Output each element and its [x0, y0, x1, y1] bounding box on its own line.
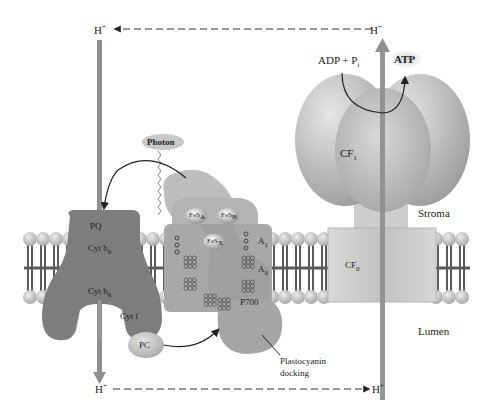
proton-label-bottom-right: H+: [372, 383, 384, 395]
proton-label-top-right: H+: [370, 24, 382, 36]
cyt-b6-lower-label: Cyt b6: [88, 287, 111, 299]
photon-label: Photon: [147, 138, 175, 147]
cyt-f-label: Cyt f: [120, 312, 138, 321]
plastocyanin-docking-label: Plastocyanin docking: [280, 355, 326, 379]
stroma-label: Stroma: [418, 208, 450, 219]
photosystem-i: [163, 170, 282, 354]
a0-label: A0: [258, 265, 268, 277]
cf0-label: CF0: [345, 261, 360, 273]
pc-label: PC: [139, 341, 150, 350]
adp-pi-label: ADP + Pi: [318, 55, 359, 69]
pq-label: PQ: [90, 222, 102, 231]
a1-label: A1: [258, 237, 268, 249]
fes-a-label: FeSA: [189, 212, 205, 221]
proton-label-top-left: H+: [94, 24, 106, 36]
atp-label: ATP: [394, 54, 415, 65]
cf1-label: CF1: [340, 148, 357, 162]
fes-b-label: FeSB: [221, 212, 237, 221]
p700-label: P700: [240, 298, 259, 307]
cyt-b6-upper-label: Cyt b6: [88, 244, 111, 256]
lumen-label: Lumen: [418, 326, 449, 337]
fes-x-label: FeSX: [207, 238, 223, 247]
photon-wave-icon: [158, 151, 161, 215]
proton-label-bottom-left: H+: [95, 383, 107, 395]
pc-docking-arrow: [164, 330, 218, 347]
